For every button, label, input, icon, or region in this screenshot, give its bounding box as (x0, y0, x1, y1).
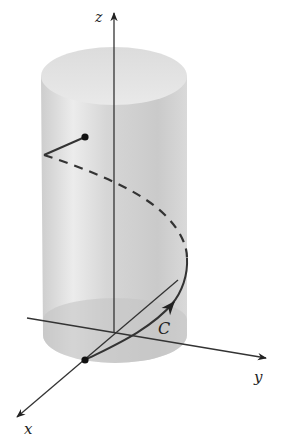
curve-label: C (158, 319, 170, 338)
end-point (81, 133, 88, 140)
x-axis-label: x (24, 420, 33, 438)
z-axis-label: z (94, 9, 103, 25)
start-point (81, 356, 88, 363)
y-axis-label: y (253, 368, 263, 386)
cylinder-helix-diagram: z y x C (0, 0, 281, 441)
